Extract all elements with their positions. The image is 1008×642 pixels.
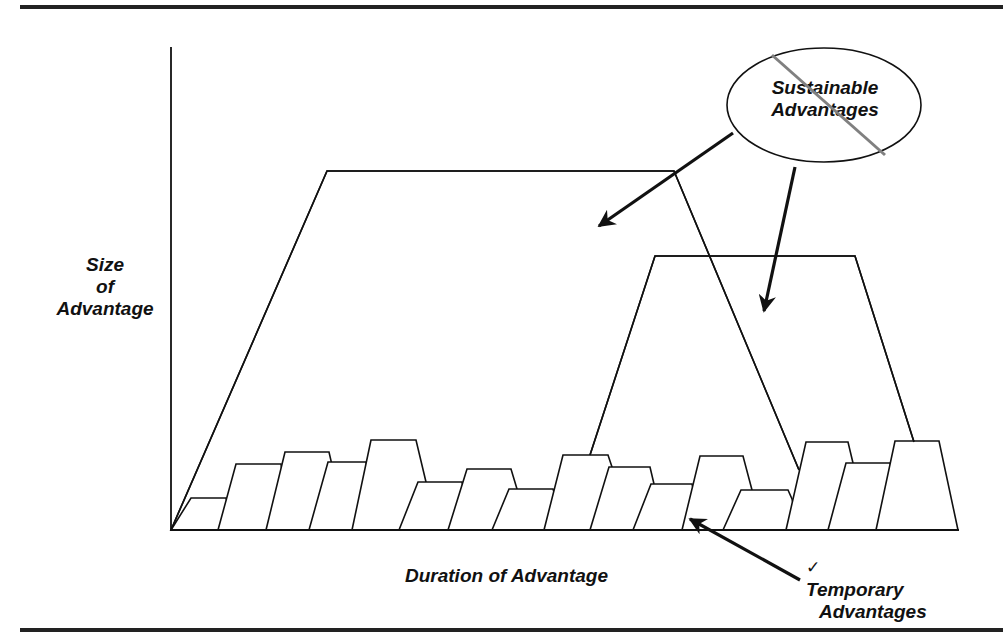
competitive-advantage-diagram: Size of Advantage Duration of Advantage … [0, 0, 1008, 642]
temporary-advantages-label: ✓Temporary Advantages [806, 557, 927, 623]
y-axis-label-line-1: Size [40, 254, 170, 276]
y-axis-label: Size of Advantage [40, 254, 170, 320]
temporary-label-text-1: Temporary [806, 579, 927, 601]
arrow-to-curve-1-icon [599, 133, 733, 226]
y-axis-label-line-2: of [40, 276, 170, 298]
sustainable-advantage-curve-2-edge [590, 256, 914, 455]
temporary-label-line-2: Advantages [806, 601, 927, 623]
sustainable-label-line-2: Advantages [740, 99, 910, 121]
arrow-to-curve-2-icon [764, 167, 795, 311]
temporary-label-line-1: ✓Temporary [806, 557, 927, 601]
x-axis-label: Duration of Advantage [405, 565, 608, 587]
y-axis-label-line-3: Advantage [40, 298, 170, 320]
sustainable-advantage-curve-2 [590, 256, 914, 455]
temporary-advantage-curves [171, 440, 958, 530]
temporary-advantage-16 [876, 441, 958, 530]
sustainable-advantages-label: Sustainable Advantages [740, 77, 910, 121]
checkmark-icon: ✓ [806, 557, 923, 579]
sustainable-label-line-1: Sustainable [740, 77, 910, 99]
